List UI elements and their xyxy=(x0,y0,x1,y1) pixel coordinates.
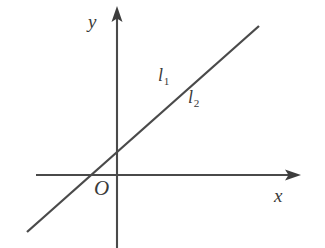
line-label-l2-base: l xyxy=(188,87,193,107)
coordinate-figure: y x O l1 l2 xyxy=(0,0,325,248)
graph-line-l1-l2 xyxy=(27,26,259,232)
origin-label: O xyxy=(94,178,109,199)
y-axis-label: y xyxy=(88,12,96,31)
figure-canvas xyxy=(0,0,325,248)
line-label-l1-subscript: 1 xyxy=(164,75,170,87)
line-label-l1-base: l xyxy=(158,65,163,85)
line-label-l2: l2 xyxy=(188,88,199,106)
line-label-l2-subscript: 2 xyxy=(194,97,200,109)
line-label-l1: l1 xyxy=(158,66,169,84)
x-axis-label: x xyxy=(274,186,282,205)
